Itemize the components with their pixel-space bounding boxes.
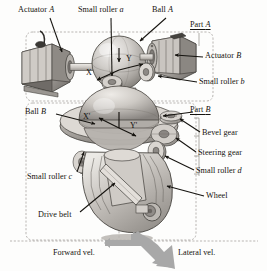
label-forward-velocity: Forward vel. [53,248,95,257]
label-small-roller-d: Small roller d [196,167,242,175]
actuator-a-body [22,31,100,97]
label-part-a: Part A [190,21,211,29]
label-wheel: Wheel [206,192,228,200]
axis-label-ball-b-y: Y' [130,122,137,130]
label-small-roller-b: Small roller b [199,78,245,86]
label-bevel-gear: Bevel gear [202,129,238,137]
label-lateral-velocity: Lateral vel. [178,248,215,257]
label-ball-a: Ball A [152,6,173,14]
axis-label-ball-b-x: X' [83,113,90,121]
label-small-roller-c: Small roller c [27,173,72,181]
label-steering-gear: Steering gear [198,149,242,157]
label-ball-b: Ball B [25,108,46,116]
actuator-b-body [139,33,196,81]
axis-label-ball-a-x: X [86,69,92,77]
figure-root: Actuator A Small roller a Ball A Part A … [0,0,267,271]
label-actuator-b: Actuator B [205,52,241,60]
axis-label-ball-a-y: Y [126,55,132,63]
small-roller-b [139,63,155,81]
bevel-gear [160,111,182,124]
label-small-roller-a: Small roller a [78,6,124,14]
label-actuator-a: Actuator A [18,6,54,14]
wheel-assembly [82,149,172,242]
label-drive-belt: Drive belt [38,211,71,219]
label-part-b: Part B [190,106,211,114]
